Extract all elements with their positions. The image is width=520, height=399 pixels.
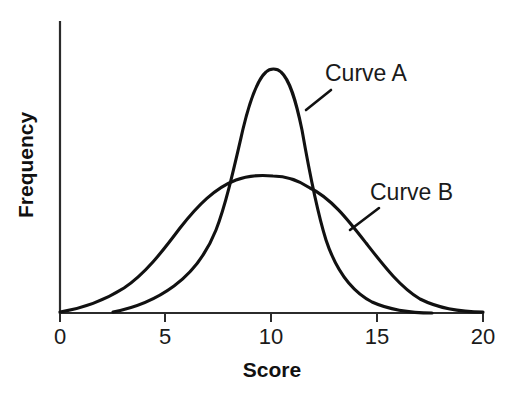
x-tick-label-20: 20 (471, 326, 495, 348)
x-tick-label-10: 10 (259, 326, 283, 348)
y-axis-title: Frequency (14, 112, 38, 218)
x-axis-title: Score (243, 358, 301, 382)
x-axis-ticks (60, 313, 483, 322)
frequency-distribution-chart: 0 5 10 15 20 Score Frequency Curve A Cur… (0, 0, 520, 399)
curve-b-leader-line (350, 208, 379, 230)
curve-b-label: Curve B (370, 181, 453, 204)
x-tick-label-0: 0 (54, 326, 66, 348)
x-tick-label-5: 5 (159, 326, 171, 348)
x-tick-label-15: 15 (365, 326, 389, 348)
curve-a-leader-line (306, 90, 331, 110)
curve-a-label: Curve A (325, 62, 407, 85)
